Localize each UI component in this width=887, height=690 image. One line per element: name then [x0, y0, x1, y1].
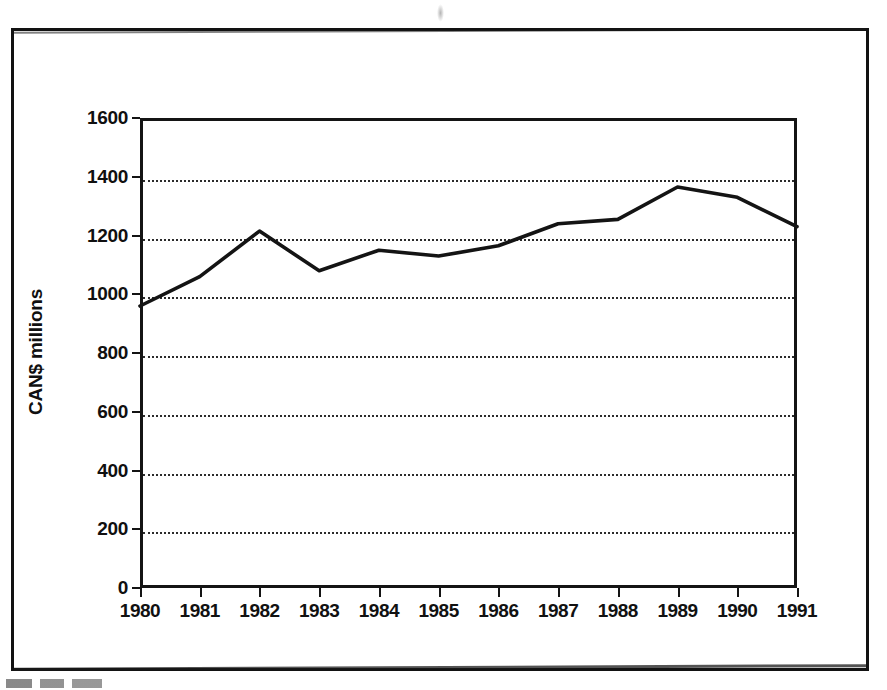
y-axis-title: CAN$ millions	[25, 289, 47, 415]
gridline	[143, 239, 794, 241]
gridline	[143, 356, 794, 358]
y-axis-tick-mark	[132, 528, 140, 530]
x-axis-tick-mark	[498, 588, 500, 597]
x-axis-tick-mark	[379, 588, 381, 597]
x-axis-tick-mark	[678, 588, 680, 597]
y-axis-tick-mark	[132, 176, 140, 178]
x-axis-tick-mark	[737, 588, 739, 597]
y-axis-tick-mark	[132, 235, 140, 237]
x-axis-tick-mark	[558, 588, 560, 597]
plot-area	[140, 118, 797, 588]
x-axis-tick-mark	[439, 588, 441, 597]
x-axis-tick-mark	[200, 588, 202, 597]
y-axis-tick-label: 600	[58, 401, 128, 423]
x-axis-tick-mark	[618, 588, 620, 597]
gridline	[143, 474, 794, 476]
x-axis-tick-mark	[797, 588, 799, 597]
gridline	[143, 415, 794, 417]
y-axis-tick-label: 1000	[58, 283, 128, 305]
y-axis-tick-mark	[132, 352, 140, 354]
x-axis-tick-mark	[259, 588, 261, 597]
line-chart: CAN$ millions 02004006008001000120014001…	[0, 0, 887, 690]
gridline	[143, 180, 794, 182]
y-axis-tick-mark	[132, 411, 140, 413]
y-axis-tick-mark	[132, 117, 140, 119]
y-axis-tick-mark	[132, 587, 140, 589]
y-axis-tick-label: 200	[58, 518, 128, 540]
x-axis-tick-mark	[319, 588, 321, 597]
y-axis-tick-mark	[132, 293, 140, 295]
gridline	[143, 532, 794, 534]
x-axis-tick-mark	[140, 588, 142, 597]
y-axis-tick-label: 800	[58, 342, 128, 364]
x-axis-tick-label: 1991	[762, 600, 832, 622]
y-axis-tick-label: 1600	[58, 107, 128, 129]
y-axis-tick-label: 0	[58, 577, 128, 599]
y-axis-tick-label: 400	[58, 460, 128, 482]
y-axis-tick-mark	[132, 470, 140, 472]
gridline	[143, 297, 794, 299]
y-axis-tick-label: 1200	[58, 225, 128, 247]
y-axis-tick-label: 1400	[58, 166, 128, 188]
